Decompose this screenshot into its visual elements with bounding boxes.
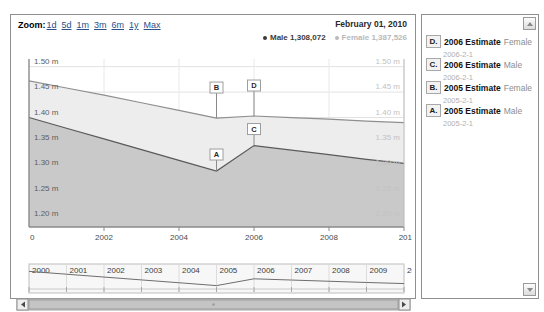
range-button-5d[interactable]: 5d (62, 20, 72, 30)
annotation-item[interactable]: B.2005 EstimateFemale2005-2-1 (422, 77, 539, 100)
chart-panel: Zoom:1d5d1m3m6m1yMax February 01, 2010 M… (10, 14, 416, 299)
navigator-year-label: 20 (407, 266, 412, 275)
navigator-year-label: 2004 (182, 266, 200, 275)
navigator-year-label: 2009 (370, 266, 388, 275)
x-tick-label: 201 (399, 233, 412, 242)
y-tick-label: 1.30 m (34, 158, 59, 167)
y-tick-label: 1.40 m (34, 108, 59, 117)
scrollbar-left-button[interactable] (17, 299, 28, 310)
triangle-up-icon (527, 22, 533, 26)
triangle-down-icon (527, 288, 533, 292)
legend-item-female[interactable]: Female 1,387,526 (335, 33, 407, 42)
annotation-badge[interactable]: C. (426, 58, 441, 71)
range-button-3m[interactable]: 3m (94, 20, 107, 30)
navigator[interactable]: 2000200120022003200420052006200720082009… (15, 263, 412, 297)
annotation-series: Male (504, 106, 522, 116)
sidebar-scroll-up-button[interactable] (523, 17, 536, 30)
navigator-year-label: 2005 (220, 266, 238, 275)
flag-label: C (251, 125, 257, 134)
x-tick-label: 0 (30, 233, 35, 242)
y-tick-label-right: 1.50 m (376, 57, 401, 66)
screenshot-root: Zoom:1d5d1m3m6m1yMax February 01, 2010 M… (0, 0, 544, 312)
y-tick-label: 1.20 m (34, 209, 59, 218)
navigator-year-label: 2002 (107, 266, 125, 275)
annotation-list: D.2006 EstimateFemale2006-2-1C.2006 Esti… (422, 31, 539, 123)
y-tick-label: 1.45 m (34, 82, 59, 91)
scrollbar-right-button[interactable] (399, 299, 410, 310)
y-tick-label-right: 1.20 m (376, 209, 401, 218)
flag-label: A (214, 150, 220, 159)
range-button-max[interactable]: Max (144, 20, 161, 30)
navigator-year-label: 2000 (32, 266, 50, 275)
annotation-badge[interactable]: D. (426, 35, 441, 48)
scrollbar-svg[interactable] (15, 298, 412, 311)
plot-area: 1.50 m1.50 m1.45 m1.45 m1.40 m1.40 m1.35… (15, 53, 412, 249)
legend-item-male[interactable]: Male 1,308,072 (263, 33, 326, 42)
legend-marker-icon (263, 36, 267, 40)
range-selector-label: Zoom: (18, 20, 46, 30)
navigator-year-label: 2007 (295, 266, 313, 275)
scrollbar-grip-icon (212, 303, 214, 305)
navigator-year-label: 2001 (70, 266, 88, 275)
range-button-1m[interactable]: 1m (77, 20, 90, 30)
chart-date-label: February 01, 2010 (335, 19, 407, 29)
annotation-badge[interactable]: B. (426, 81, 441, 94)
navigator-scrollbar[interactable] (15, 297, 412, 310)
annotation-series: Female (504, 37, 532, 47)
navigator-year-label: 2006 (257, 266, 275, 275)
legend-marker-icon (335, 36, 339, 40)
chart-legend: Male 1,308,072Female 1,387,526 (254, 33, 407, 42)
annotation-badge[interactable]: A. (426, 104, 441, 117)
x-tick-label: 2008 (320, 233, 338, 242)
annotation-date: 2005-2-1 (443, 119, 538, 128)
y-tick-label: 1.25 m (34, 184, 59, 193)
range-selector-buttons: 1d5d1m3m6m1yMax (46, 20, 161, 30)
annotation-series: Male (504, 60, 522, 70)
legend-label: Male 1,308,072 (270, 33, 326, 42)
y-tick-label-right: 1.35 m (376, 133, 401, 142)
y-tick-label-right: 1.45 m (376, 82, 401, 91)
annotation-item[interactable]: A.2005 EstimateMale2005-2-1 (422, 100, 539, 123)
range-button-1y[interactable]: 1y (129, 20, 139, 30)
navigator-svg[interactable]: 2000200120022003200420052006200720082009… (15, 263, 412, 297)
annotation-title: 2006 Estimate (444, 60, 501, 70)
y-tick-label-right: 1.25 m (376, 184, 401, 193)
y-tick-label-right: 1.40 m (376, 108, 401, 117)
annotations-sidebar: D.2006 EstimateFemale2006-2-1C.2006 Esti… (421, 14, 539, 299)
y-tick-label-right: 1.30 m (376, 158, 401, 167)
x-tick-label: 2004 (170, 233, 188, 242)
y-tick-label: 1.50 m (34, 57, 59, 66)
navigator-year-label: 2003 (145, 266, 163, 275)
annotation-title: 2006 Estimate (444, 37, 501, 47)
sidebar-scroll-down-button[interactable] (523, 283, 536, 296)
annotation-title: 2005 Estimate (444, 106, 501, 116)
flag-label: D (251, 81, 257, 90)
range-button-1d[interactable]: 1d (47, 20, 57, 30)
x-tick-label: 2006 (245, 233, 263, 242)
flag-label: B (214, 83, 220, 92)
x-tick-label: 2002 (95, 233, 113, 242)
legend-label: Female 1,387,526 (342, 33, 407, 42)
annotation-title: 2005 Estimate (444, 83, 501, 93)
chart-svg: 1.50 m1.50 m1.45 m1.45 m1.40 m1.40 m1.35… (15, 53, 412, 249)
annotation-series: Female (504, 83, 532, 93)
y-tick-label: 1.35 m (34, 133, 59, 142)
range-button-6m[interactable]: 6m (112, 20, 125, 30)
navigator-year-label: 2008 (332, 266, 350, 275)
annotation-item[interactable]: C.2006 EstimateMale2006-2-1 (422, 54, 539, 77)
range-selector: Zoom:1d5d1m3m6m1yMax (18, 20, 161, 30)
annotation-item[interactable]: D.2006 EstimateFemale2006-2-1 (422, 31, 539, 54)
